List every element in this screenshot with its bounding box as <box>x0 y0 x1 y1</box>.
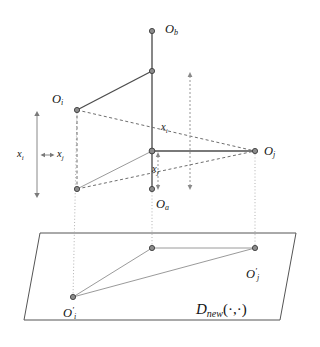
label-o-a-sub: a <box>165 203 169 212</box>
label-o-i: Oi <box>52 92 63 107</box>
label-o-i-sub: i <box>61 98 63 107</box>
label-o-j-base: O <box>264 144 273 158</box>
edge-planei-planemid <box>73 248 152 297</box>
label-x-j-left-sub: j <box>61 153 64 161</box>
node-plane-i <box>70 294 75 299</box>
nodes-group <box>70 28 257 299</box>
label-x-i-left: xi <box>16 148 24 161</box>
measure-xi-mid-arrowhead-top <box>188 72 193 77</box>
label-x-j-mid: xj <box>151 163 159 176</box>
label-o-i-base: O <box>52 92 61 106</box>
node-plane-mid <box>149 245 154 250</box>
node-plane-j <box>252 245 257 250</box>
label-o-j-proj: O′j <box>246 266 260 282</box>
measure-xj-left-arrowhead-left <box>41 153 46 158</box>
edge-planei-planej <box>73 248 255 297</box>
labels-group: Ob Oi Oj Oa O′i O′j <box>16 22 276 321</box>
label-x-j-mid-sub: j <box>156 168 159 176</box>
label-o-b-base: O <box>165 22 174 36</box>
label-o-a: Oa <box>156 197 169 212</box>
node-o-b <box>149 28 154 33</box>
label-d-new-args: (·,·) <box>223 301 247 318</box>
label-x-i-mid-sub: i <box>166 126 168 134</box>
label-d-new: Dnew(·,·) <box>195 301 247 318</box>
dashed-lowerleft-oj <box>77 151 255 189</box>
measure-xi-left-arrowhead-top <box>34 111 39 116</box>
node-o-a <box>149 186 154 191</box>
edge-lowerleft-center <box>77 151 152 189</box>
label-x-i-left-sub: i <box>22 153 24 161</box>
measure-xi-mid-arrowhead-bottom <box>188 185 193 190</box>
figure-root: Ob Oi Oj Oa O′i O′j <box>0 0 320 347</box>
label-o-b-sub: b <box>174 28 178 37</box>
node-lower-left <box>74 186 79 191</box>
edge-oi-topmid <box>77 71 152 110</box>
node-top-mid <box>149 68 154 73</box>
diagram-canvas: Ob Oi Oj Oa O′i O′j <box>0 0 320 347</box>
measure-xj-left-arrowhead-right <box>50 153 55 158</box>
thin-lines-group <box>73 151 255 297</box>
label-o-j-proj-sub: j <box>256 273 260 282</box>
label-d-new-sub: new <box>207 308 223 319</box>
label-o-j-proj-base: O <box>246 267 255 281</box>
node-o-j <box>252 148 257 153</box>
label-x-j-left: xj <box>56 148 64 161</box>
node-o-i <box>74 107 79 112</box>
measure-xj-mid-arrowhead-top <box>156 152 160 157</box>
drop-line-o-i <box>73 110 77 297</box>
measure-arrows-group <box>34 111 54 198</box>
solid-lines-group <box>77 31 255 189</box>
node-center <box>149 148 155 154</box>
measure-xj-mid-arrowhead-bottom <box>156 185 160 190</box>
label-x-i-mid: xi <box>160 121 168 134</box>
label-o-i-proj: O′i <box>63 305 76 321</box>
label-d-new-base: D <box>195 301 207 317</box>
label-o-a-base: O <box>156 197 165 211</box>
label-o-j: Oj <box>264 144 276 159</box>
dashed-lines-group <box>77 110 255 189</box>
label-o-b: Ob <box>165 22 178 37</box>
label-o-i-proj-base: O <box>63 306 72 320</box>
label-o-j-sub: j <box>272 150 276 159</box>
measure-xi-left-arrowhead-bottom <box>34 193 39 198</box>
label-o-i-proj-sub: i <box>74 312 76 321</box>
